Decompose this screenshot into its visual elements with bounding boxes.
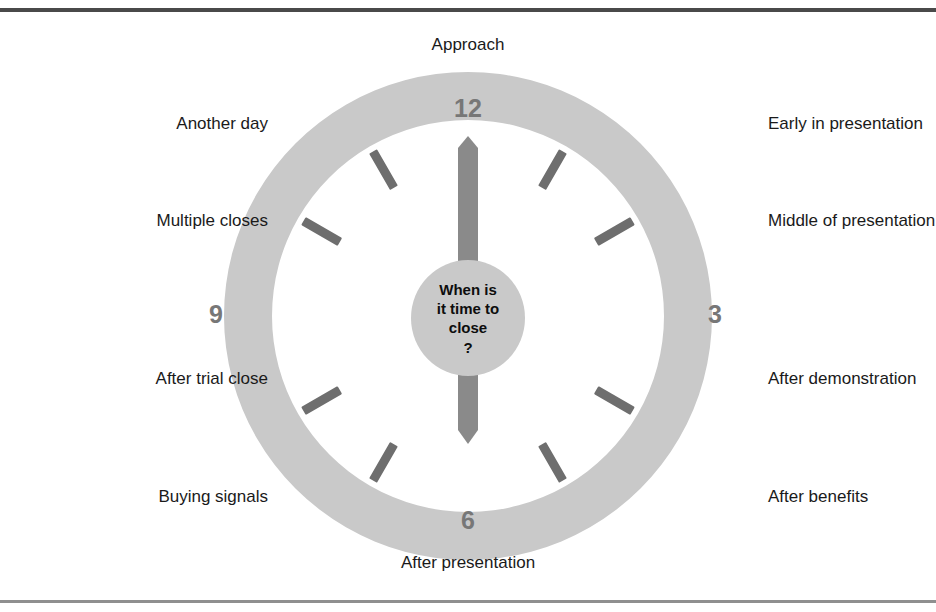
dial-numeral-6: 6 xyxy=(453,508,483,533)
dial-numeral-3: 3 xyxy=(700,302,730,327)
hub-question-line-3: close xyxy=(403,318,533,337)
tick-mark-4 xyxy=(594,386,635,415)
tick-mark-1 xyxy=(538,149,567,190)
hour-hand xyxy=(458,372,478,444)
minute-hand xyxy=(458,136,478,262)
label-another-day: Another day xyxy=(48,115,268,132)
tick-mark-8 xyxy=(301,386,342,415)
label-multiple-closes: Multiple closes xyxy=(18,212,268,229)
hub-question-line-1: When is xyxy=(403,280,533,299)
label-middle-of-presentation: Middle of presentation xyxy=(768,212,935,229)
tick-mark-7 xyxy=(369,442,398,483)
dial-numeral-12: 12 xyxy=(448,96,488,121)
tick-mark-2 xyxy=(594,217,635,246)
hub-question-text: When is it time to close ? xyxy=(403,280,533,357)
bottom-rule-divider xyxy=(0,600,936,603)
label-after-demonstration: After demonstration xyxy=(768,370,916,387)
tick-mark-5 xyxy=(538,442,567,483)
figure-page: 12 3 6 9 When is it time to close ? Appr… xyxy=(0,0,936,612)
tick-mark-10 xyxy=(301,217,342,246)
dial-numeral-9: 9 xyxy=(201,302,231,327)
label-early-in-presentation: Early in presentation xyxy=(768,115,923,132)
label-after-trial-close: After trial close xyxy=(18,370,268,387)
tick-mark-11 xyxy=(369,149,398,190)
label-after-benefits: After benefits xyxy=(768,488,868,505)
hub-question-line-2: it time to xyxy=(403,299,533,318)
label-approach: Approach xyxy=(368,36,568,53)
label-after-presentation: After presentation xyxy=(368,554,568,571)
hub-question-line-4: ? xyxy=(403,338,533,357)
label-buying-signals: Buying signals xyxy=(28,488,268,505)
